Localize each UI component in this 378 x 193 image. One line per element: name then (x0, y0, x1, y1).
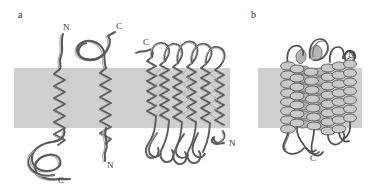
label-n-helix-middle: N (107, 160, 114, 170)
label-n-beta-barrel: N (229, 138, 236, 148)
label-c-beta-barrel: C (143, 37, 149, 47)
panel-a: a N C C C N N (14, 9, 236, 185)
panel-b-letter: b (251, 9, 256, 20)
label-n-helix-left: N (63, 22, 70, 32)
panel-a-letter: a (18, 9, 23, 20)
helix-bundle (281, 39, 357, 156)
panel-b: b N C (251, 9, 362, 163)
label-c-helix-middle: C (116, 21, 122, 31)
label-c-helix-bundle: C (310, 153, 316, 163)
figure-container: a N C C C N N (0, 0, 378, 193)
label-c-helix-left: C (58, 175, 64, 185)
label-n-helix-bundle: N (348, 49, 355, 59)
beta-barrel (136, 42, 225, 164)
membrane-band-panel-a (14, 68, 230, 128)
membrane-protein-figure: a N C C C N N (0, 0, 378, 193)
